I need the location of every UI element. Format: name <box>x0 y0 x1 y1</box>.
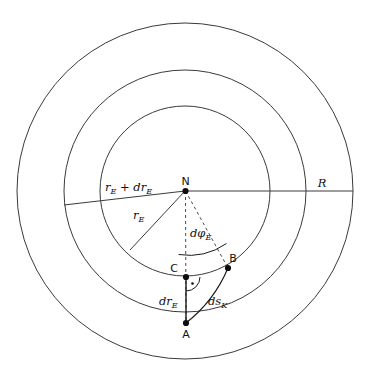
label-rE-plus-drE: rE + drE <box>105 180 152 196</box>
label-point-C: C <box>170 262 178 275</box>
arc-ds-K <box>186 268 228 323</box>
label-point-B: B <box>229 252 237 265</box>
label-ds-K: dsK <box>208 294 228 310</box>
label-rE-sub: E <box>138 215 145 224</box>
node-dot-C <box>183 274 189 280</box>
geometry-diagram: N A B C R rE + drE rE dφE drE dsK <box>0 0 365 376</box>
node-dot-B <box>225 265 231 271</box>
right-angle-dot <box>191 282 194 285</box>
label-dphi-sub: E <box>204 233 211 242</box>
figure-canvas: N A B C R rE + drE rE dφE drE dsK <box>0 0 365 376</box>
label-dphi-E: dφE <box>190 226 211 242</box>
label-rE-plus-drE-plus: + <box>116 180 133 194</box>
label-radius-R: R <box>317 176 327 190</box>
label-rE: rE <box>133 208 145 224</box>
label-dr-sub: E <box>171 301 178 310</box>
label-rE-plus-drE-sub2: E <box>145 187 152 196</box>
label-ds-base: ds <box>208 294 221 308</box>
node-dot-A <box>183 320 189 326</box>
label-dr-E: drE <box>159 294 178 310</box>
label-ds-sub: K <box>220 301 228 310</box>
node-dot-N <box>182 188 188 194</box>
label-point-N: N <box>181 175 189 188</box>
label-point-A: A <box>182 328 190 341</box>
label-dphi-base: dφ <box>190 226 205 240</box>
